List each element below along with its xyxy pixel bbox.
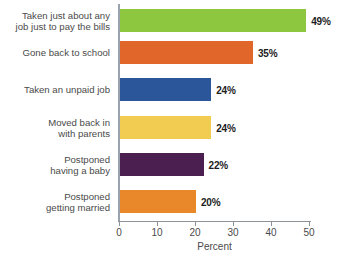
category-label: Postponed getting married <box>2 190 110 213</box>
x-axis-line <box>118 221 311 222</box>
x-axis-tick-label: 20 <box>189 227 200 238</box>
x-axis-tick <box>119 221 120 226</box>
bar-row: Postponed having a baby 22% <box>0 153 341 176</box>
bar <box>120 78 211 101</box>
bar-row: Postponed getting married 20% <box>0 190 341 213</box>
bar-value-label: 20% <box>201 196 220 207</box>
x-axis-tick <box>271 221 272 226</box>
bar-value-label: 49% <box>311 15 330 26</box>
x-axis-tick <box>233 221 234 226</box>
horizontal-bar-chart: Taken just about any job just to pay the… <box>0 0 341 260</box>
x-axis-title: Percent <box>118 241 311 252</box>
x-axis-tick-label: 10 <box>151 227 162 238</box>
plot-area: Taken just about any job just to pay the… <box>0 0 341 260</box>
bar <box>120 190 196 213</box>
x-axis-tick-label: 50 <box>303 227 314 238</box>
x-axis-tick <box>195 221 196 226</box>
bar <box>120 153 204 176</box>
x-axis-tick <box>157 221 158 226</box>
category-label: Moved back in with parents <box>2 116 110 139</box>
bar-row: Gone back to school 35% <box>0 41 341 64</box>
bar <box>120 116 211 139</box>
bar-row: Taken an unpaid job 24% <box>0 78 341 101</box>
bar <box>120 41 253 64</box>
category-label: Gone back to school <box>2 47 110 59</box>
x-axis-tick-label: 30 <box>227 227 238 238</box>
bar-row: Taken just about any job just to pay the… <box>0 9 341 32</box>
bar-value-label: 24% <box>216 122 235 133</box>
category-label: Taken an unpaid job <box>2 84 110 96</box>
x-axis-tick-label: 40 <box>265 227 276 238</box>
category-label: Postponed having a baby <box>2 153 110 176</box>
bar <box>120 9 306 32</box>
bar-row: Moved back in with parents 24% <box>0 116 341 139</box>
bar-value-label: 22% <box>209 159 228 170</box>
y-axis-line <box>118 4 120 221</box>
x-axis-tick-label: 0 <box>116 227 122 238</box>
category-label: Taken just about any job just to pay the… <box>2 9 110 32</box>
x-axis-tick <box>309 221 310 226</box>
bar-value-label: 35% <box>258 47 277 58</box>
bar-value-label: 24% <box>216 84 235 95</box>
